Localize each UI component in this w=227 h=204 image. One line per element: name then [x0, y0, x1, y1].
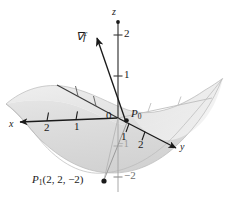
point-p1-coordinates: (2, 2, −2): [42, 173, 83, 185]
point-p1-marker: [101, 178, 106, 183]
y-tick-label-1: 1: [121, 131, 127, 142]
y-axis-label: y: [180, 142, 184, 152]
origin-label: 0: [106, 110, 112, 121]
point-p0-marker: [124, 118, 129, 123]
point-p1-label: P1(2, 2, −2): [32, 174, 84, 186]
point-p0-label: P0: [131, 108, 141, 120]
point-p0-name: P: [131, 107, 138, 119]
z-tick-label-neg2: −2: [124, 170, 136, 181]
z-axis-label: z: [112, 7, 116, 17]
gradient-label: ∇f: [76, 31, 86, 42]
x-tick-label-1: 1: [74, 121, 80, 132]
x-axis-label: x: [9, 119, 13, 129]
x-tick-label-2: 2: [44, 122, 50, 133]
surface-plot-figure: z 2 1 −1 −2 ∇f x 2 1 y 1 2 0 P0 P1(2, 2,…: [0, 0, 227, 204]
y-tick-label-2: 2: [138, 139, 144, 150]
point-p1-name: P: [32, 173, 39, 185]
point-p0-subscript: 0: [138, 112, 142, 121]
z-tick-label-1: 1: [124, 69, 130, 80]
z-tick-label-2: 2: [124, 28, 130, 39]
